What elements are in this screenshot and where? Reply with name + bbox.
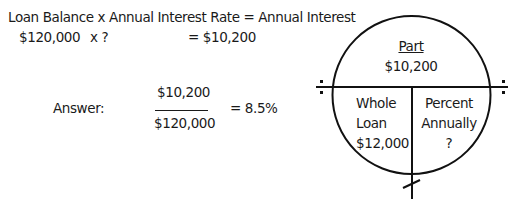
circle-part-section: Part $10,200 [381,36,441,76]
part-value: $10,200 [381,56,441,76]
percent-line-1: Percent [414,93,484,113]
part-title: Part [381,36,441,56]
whole-line-1: Whole [356,93,407,113]
whole-line-2: Loan [356,113,407,133]
circle-percent-section: Percent Annually ? [414,93,484,153]
circle-whole-section: Whole Loan $12,000 [347,93,407,153]
percent-line-2: Annually [414,113,484,133]
whole-value: $12,000 [356,133,407,153]
percent-value: ? [414,133,484,153]
